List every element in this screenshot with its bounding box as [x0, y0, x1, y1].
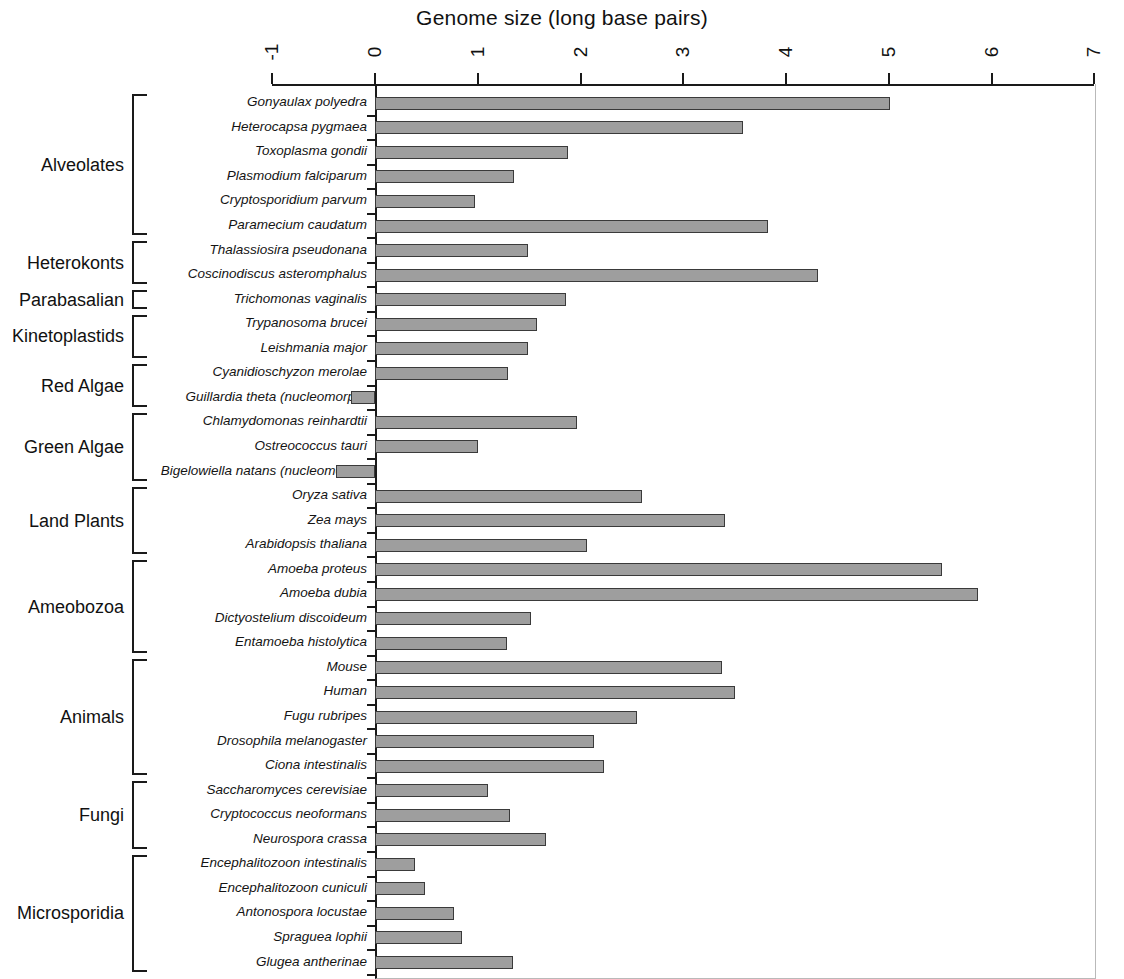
x-axis-tick-label: 3 — [673, 39, 693, 65]
species-label: Dictyostelium discoideum — [215, 611, 367, 625]
group-label: Heterokonts — [0, 253, 124, 273]
species-label: Entamoeba histolytica — [235, 635, 367, 649]
group-label: Red Algae — [0, 376, 124, 396]
bar — [375, 220, 768, 233]
species-label: Arabidopsis thaliana — [245, 537, 367, 551]
chart-row: Antonospora locustae — [0, 901, 1124, 926]
species-label: Toxoplasma gondii — [255, 144, 367, 158]
bar — [375, 563, 942, 576]
species-label: Thalassiosira pseudonana — [209, 243, 367, 257]
chart-row: Chlamydomonas reinhardtii — [0, 410, 1124, 435]
bar — [375, 269, 818, 282]
x-axis-tick-label: 0 — [365, 39, 385, 65]
chart-row: Guillardia theta (nucleomorph) — [0, 386, 1124, 411]
x-axis-tick — [580, 73, 582, 84]
x-axis-tick-label: 7 — [1084, 39, 1104, 65]
chart-title: Genome size (long base pairs) — [0, 6, 1124, 30]
chart-row: Ciona intestinalis — [0, 754, 1124, 779]
bar — [375, 146, 568, 159]
bar — [375, 711, 637, 724]
bar — [375, 637, 507, 650]
bar — [375, 858, 415, 871]
chart-row: Leishmania major — [0, 337, 1124, 362]
group-bracket — [132, 855, 147, 972]
x-axis-tick-label: 2 — [571, 39, 591, 65]
bar — [351, 391, 375, 404]
species-label: Trichomonas vaginalis — [234, 292, 367, 306]
taxon-group: Kinetoplastids — [0, 315, 150, 358]
bar — [375, 121, 743, 134]
group-label: Microsporidia — [0, 903, 124, 923]
group-bracket — [132, 781, 147, 849]
group-bracket — [132, 315, 147, 358]
x-axis-tick-label: -1 — [262, 39, 282, 65]
species-label: Mouse — [326, 660, 367, 674]
bar — [336, 465, 375, 478]
bar — [375, 612, 531, 625]
species-label: Encephalitozoon cuniculi — [218, 881, 367, 895]
bar — [375, 809, 510, 822]
species-label: Glugea antherinae — [256, 955, 367, 969]
species-label: Leishmania major — [260, 341, 367, 355]
bar — [375, 416, 577, 429]
chart-row: Neurospora crassa — [0, 828, 1124, 853]
species-label: Cryptosporidium parvum — [220, 193, 367, 207]
taxon-group: Fungi — [0, 781, 150, 849]
bar — [375, 490, 642, 503]
chart-row: Spraguea lophii — [0, 926, 1124, 951]
species-label: Trypanosoma brucei — [245, 316, 367, 330]
bar — [375, 440, 478, 453]
group-bracket — [132, 290, 147, 309]
taxon-group: Parabasalian — [0, 290, 150, 309]
species-label: Antonospora locustae — [236, 905, 367, 919]
bar — [375, 735, 594, 748]
bar — [375, 833, 546, 846]
chart-row: Trichomonas vaginalis — [0, 287, 1124, 312]
bar — [375, 244, 528, 257]
bar — [375, 195, 475, 208]
x-axis-tick — [991, 73, 993, 84]
species-label: Cryptococcus neoformans — [210, 807, 367, 821]
taxon-group: Green Algae — [0, 413, 150, 481]
x-axis-tick — [682, 73, 684, 84]
group-label: Land Plants — [0, 511, 124, 531]
chart-row: Toxoplasma gondii — [0, 140, 1124, 165]
bar — [375, 514, 725, 527]
bar — [375, 907, 454, 920]
bar — [375, 539, 587, 552]
group-bracket — [132, 560, 147, 652]
x-axis-tick — [1093, 73, 1095, 84]
x-axis-tick — [477, 73, 479, 84]
chart-row: Amoeba proteus — [0, 557, 1124, 582]
species-label: Encephalitozoon intestinalis — [200, 856, 367, 870]
species-label: Amoeba proteus — [268, 562, 367, 576]
species-label: Cyanidioschyzon merolae — [212, 365, 367, 379]
chart-row: Amoeba dubia — [0, 582, 1124, 607]
bar — [375, 931, 462, 944]
bar — [375, 342, 528, 355]
chart-row: Heterocapsa pygmaea — [0, 116, 1124, 141]
chart-row: Oryza sativa — [0, 484, 1124, 509]
bar — [375, 686, 735, 699]
taxon-group: Red Algae — [0, 364, 150, 407]
x-axis-tick — [374, 73, 376, 84]
group-bracket — [132, 659, 147, 776]
chart-row: Zea mays — [0, 508, 1124, 533]
chart-row: Dictyostelium discoideum — [0, 607, 1124, 632]
bar — [375, 956, 513, 969]
chart-row: Arabidopsis thaliana — [0, 533, 1124, 558]
species-label: Saccharomyces cerevisiae — [206, 783, 367, 797]
group-bracket — [132, 487, 147, 555]
chart-row: Saccharomyces cerevisiae — [0, 778, 1124, 803]
chart-row: Drosophila melanogaster — [0, 729, 1124, 754]
x-axis-tick-label: 5 — [879, 39, 899, 65]
x-axis-tick-label: 4 — [776, 39, 796, 65]
chart-row: Encephalitozoon intestinalis — [0, 852, 1124, 877]
bar — [375, 784, 488, 797]
species-label: Neurospora crassa — [253, 832, 367, 846]
species-label: Fugu rubripes — [284, 709, 367, 723]
species-label: Human — [323, 684, 367, 698]
chart-row: Encephalitozoon cuniculi — [0, 877, 1124, 902]
bar — [375, 367, 508, 380]
